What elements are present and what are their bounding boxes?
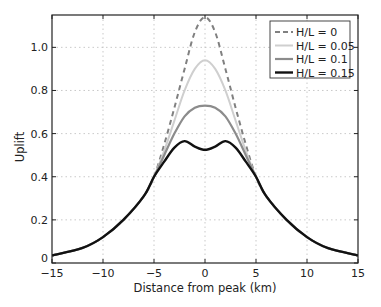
y-tick-labels: 00.20.40.60.81.0 — [31, 41, 49, 265]
x-tick-label: 5 — [253, 267, 260, 280]
x-tick-label: 0 — [202, 267, 209, 280]
series-line-3 — [52, 141, 358, 255]
x-tick-label: −5 — [146, 267, 162, 280]
series-line-1 — [52, 60, 358, 255]
uplift-chart: −15−10−5051015 00.20.40.60.81.0 Distance… — [0, 0, 381, 307]
y-tick-label: 0.2 — [31, 214, 49, 227]
x-tick-label: 10 — [300, 267, 314, 280]
y-tick-label: 1.0 — [31, 41, 49, 54]
legend-label: H/L = 0.15 — [296, 67, 355, 80]
y-tick-label: 0.6 — [31, 128, 49, 141]
x-tick-label: 15 — [351, 267, 365, 280]
y-tick-label: 0 — [41, 252, 48, 265]
x-axis-label: Distance from peak (km) — [134, 281, 277, 295]
legend-label: H/L = 0.1 — [296, 53, 348, 66]
legend-label: H/L = 0.05 — [296, 40, 355, 53]
legend: H/L = 0H/L = 0.05H/L = 0.1H/L = 0.15 — [270, 21, 355, 80]
y-tick-label: 0.8 — [31, 84, 49, 97]
y-axis-label: Uplift — [13, 131, 27, 162]
x-tick-label: −15 — [40, 267, 63, 280]
legend-label: H/L = 0 — [296, 26, 337, 39]
y-tick-label: 0.4 — [31, 171, 49, 184]
x-tick-label: −10 — [91, 267, 114, 280]
x-tick-labels: −15−10−5051015 — [40, 267, 365, 280]
